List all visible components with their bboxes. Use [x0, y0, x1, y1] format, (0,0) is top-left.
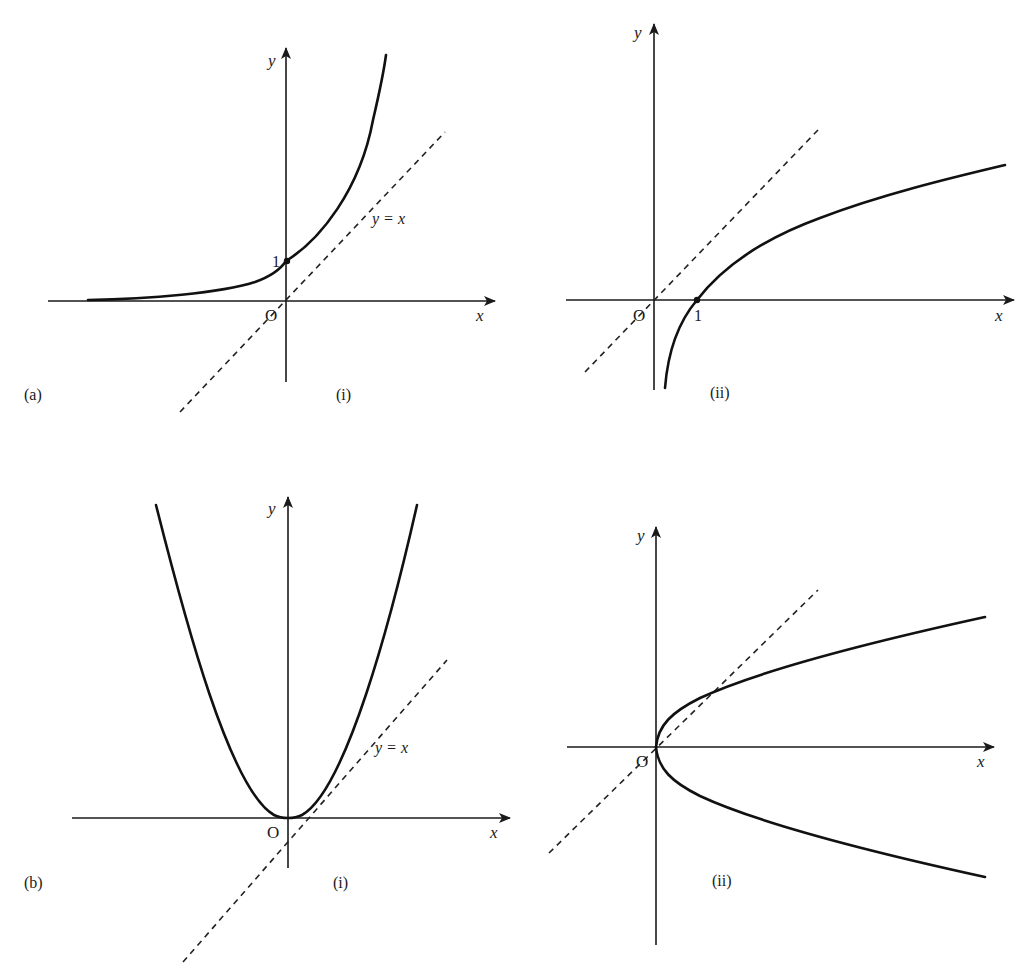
origin-label: O	[267, 823, 279, 842]
sub-label: (i)	[333, 874, 348, 892]
origin-label: O	[633, 306, 645, 325]
line-y-equals-x	[585, 130, 818, 372]
point-1-0	[694, 297, 700, 303]
upper-branch-curve	[656, 617, 985, 747]
x-axis-label: x	[475, 306, 484, 325]
x-axis-label: x	[976, 752, 985, 771]
panel-b-i: y = x O x y (b) (i)	[24, 497, 510, 962]
line-label: y = x	[370, 210, 405, 228]
origin-label: O	[265, 306, 277, 325]
part-label: (b)	[24, 874, 43, 892]
line-y-equals-x	[549, 590, 818, 853]
x-intercept-label: 1	[694, 307, 702, 324]
logarithm-curve	[665, 165, 1005, 388]
sub-label: (ii)	[712, 872, 732, 890]
origin-label: O	[636, 752, 648, 771]
sub-label: (ii)	[710, 384, 730, 402]
part-label: (a)	[24, 386, 42, 404]
y-axis-label: y	[266, 499, 276, 518]
x-axis-label: x	[994, 306, 1003, 325]
line-label: y = x	[373, 739, 408, 757]
x-axis-label: x	[489, 823, 498, 842]
panel-a-i: 1 y = x O x y (a) (i)	[24, 48, 495, 412]
panel-b-ii: O x y (ii)	[549, 526, 994, 945]
sub-label: (i)	[336, 386, 351, 404]
line-y-equals-x	[180, 132, 445, 412]
parabola-curve	[156, 505, 417, 818]
function-graphs-figure: 1 y = x O x y (a) (i) 1 O x y (ii) y = x…	[0, 0, 1028, 976]
y-axis-label: y	[635, 526, 645, 545]
lower-branch-curve	[656, 747, 985, 877]
point-0-1	[284, 258, 290, 264]
y-intercept-label: 1	[272, 253, 280, 270]
y-axis-label: y	[266, 51, 276, 70]
exponential-curve	[88, 55, 386, 300]
line-y-equals-x	[183, 660, 447, 962]
y-axis-label: y	[632, 23, 642, 42]
panel-a-ii: 1 O x y (ii)	[566, 23, 1014, 402]
